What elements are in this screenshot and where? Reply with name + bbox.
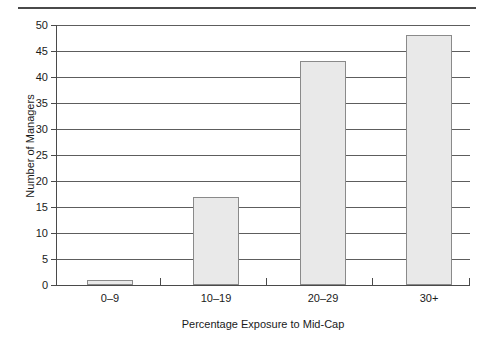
axis-baseline-0 bbox=[56, 285, 470, 286]
x-tick-4 bbox=[469, 278, 470, 286]
bar-30-plus bbox=[406, 35, 452, 285]
y-axis-title: Number of Managers bbox=[24, 56, 36, 236]
gridline-50 bbox=[56, 25, 470, 26]
plot-area: 50 45 40 35 30 25 20 15 10 5 0 0–9 10–19… bbox=[0, 0, 485, 344]
x-tick-label-20-29: 20–29 bbox=[283, 292, 363, 304]
bar-chart-figure: 50 45 40 35 30 25 20 15 10 5 0 0–9 10–19… bbox=[0, 0, 485, 344]
y-tick-10 bbox=[51, 233, 56, 234]
y-tick-35 bbox=[51, 103, 56, 104]
x-tick-2 bbox=[266, 278, 267, 286]
y-tick-45 bbox=[51, 51, 56, 52]
y-tick-5 bbox=[51, 259, 56, 260]
y-tick-label-0: 0 bbox=[18, 280, 48, 291]
x-tick-label-30-plus: 30+ bbox=[389, 292, 469, 304]
x-axis-title: Percentage Exposure to Mid-Cap bbox=[56, 318, 470, 330]
x-tick-label-10-19: 10–19 bbox=[176, 292, 256, 304]
bar-20-29 bbox=[300, 61, 346, 285]
y-tick-30 bbox=[51, 129, 56, 130]
x-tick-3 bbox=[372, 278, 373, 286]
y-tick-20 bbox=[51, 181, 56, 182]
y-tick-50 bbox=[51, 25, 56, 26]
bar-0-9 bbox=[87, 280, 133, 285]
y-axis-spine bbox=[56, 25, 57, 286]
y-tick-0 bbox=[51, 285, 56, 286]
y-tick-label-50: 50 bbox=[18, 20, 48, 31]
x-tick-1 bbox=[160, 278, 161, 286]
x-tick-label-0-9: 0–9 bbox=[70, 292, 150, 304]
y-tick-25 bbox=[51, 155, 56, 156]
y-tick-label-5: 5 bbox=[18, 254, 48, 265]
bar-10-19 bbox=[193, 197, 239, 285]
y-tick-15 bbox=[51, 207, 56, 208]
y-tick-40 bbox=[51, 77, 56, 78]
